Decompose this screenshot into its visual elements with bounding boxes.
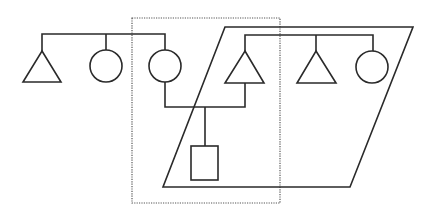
female-circle-icon	[356, 51, 388, 83]
kinship-diagram	[0, 0, 434, 217]
male-triangle-icon	[23, 51, 61, 82]
female-circle-icon	[90, 50, 122, 82]
left-sibship	[23, 34, 181, 82]
right-sibship	[225, 35, 388, 83]
marriage-line	[165, 82, 245, 107]
male-triangle-icon	[297, 51, 336, 83]
husband-triangle-icon	[225, 51, 264, 83]
left-sibship-line	[42, 34, 165, 51]
child-square-icon	[191, 146, 218, 180]
wife-circle-icon	[149, 50, 181, 82]
marriage-and-descent	[165, 82, 245, 180]
right-sibship-line	[245, 35, 373, 51]
